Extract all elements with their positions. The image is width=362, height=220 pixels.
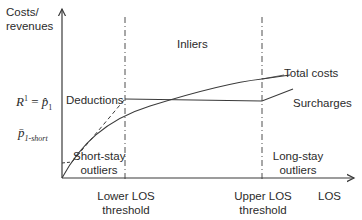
revenue-line bbox=[125, 89, 293, 101]
total-costs-label: Total costs bbox=[284, 66, 338, 80]
r1-equals: = bbox=[28, 94, 42, 109]
p-short-sub: 1-short bbox=[25, 134, 48, 143]
long-stay-line2: outliers bbox=[266, 163, 330, 177]
surcharges-label: Surcharges bbox=[293, 96, 352, 110]
p-short-label: p̄1-short bbox=[18, 126, 48, 146]
deductions-label: Deductions bbox=[66, 93, 124, 107]
lower-los-threshold-label: Lower LOS threshold bbox=[97, 189, 155, 217]
inliers-label: Inliers bbox=[177, 37, 208, 51]
short-stay-outliers-label: Short-stay outliers bbox=[73, 149, 125, 177]
upper-los-threshold-label: Upper LOS threshold bbox=[234, 189, 292, 217]
lower-threshold-line1: Lower LOS bbox=[97, 189, 155, 203]
short-stay-line2: outliers bbox=[73, 163, 125, 177]
p-short-marker-line bbox=[62, 162, 72, 163]
diagram-canvas bbox=[0, 0, 362, 220]
y-axis-label-line2: revenues bbox=[6, 19, 53, 33]
total-costs-leader bbox=[262, 75, 284, 79]
r1-base: R bbox=[16, 94, 24, 109]
x-axis-label: LOS bbox=[318, 189, 341, 203]
y-axis-label: Costs/ revenues bbox=[6, 5, 53, 33]
long-stay-line1: Long-stay bbox=[266, 149, 330, 163]
p1-sub: 1 bbox=[48, 103, 52, 112]
upper-threshold-line1: Upper LOS bbox=[234, 189, 292, 203]
upper-threshold-line2: threshold bbox=[234, 203, 292, 217]
y-axis-label-line1: Costs/ bbox=[6, 5, 53, 19]
r1-equals-p1-label: R1 = p̂1 bbox=[16, 92, 52, 115]
long-stay-outliers-label: Long-stay outliers bbox=[266, 149, 330, 177]
short-stay-line1: Short-stay bbox=[73, 149, 125, 163]
lower-threshold-line2: threshold bbox=[97, 203, 155, 217]
